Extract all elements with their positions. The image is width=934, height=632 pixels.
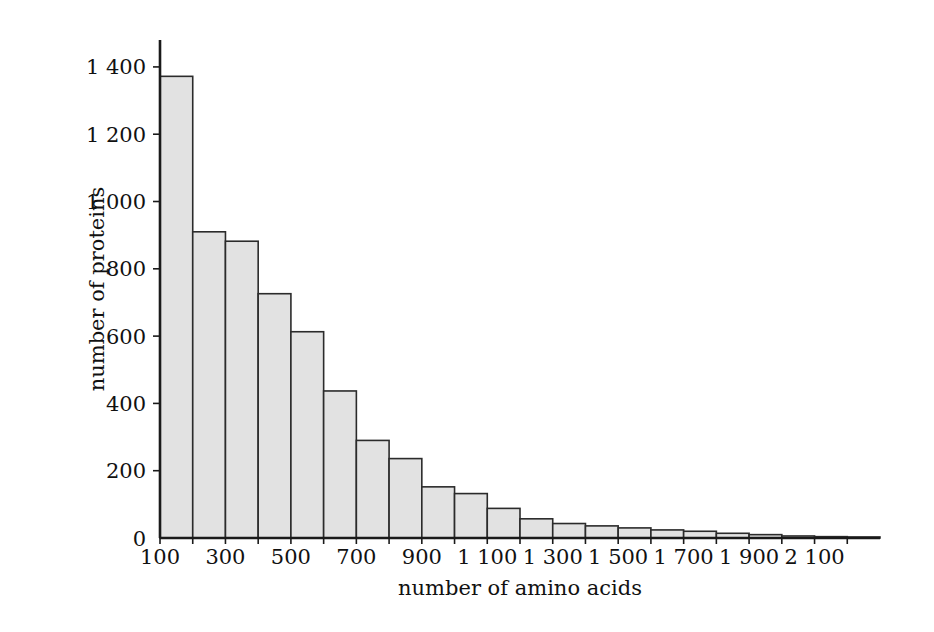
histogram-bar: [160, 76, 193, 538]
x-tick-label: 2 100: [784, 545, 844, 569]
x-tick-label: 1 100: [457, 545, 517, 569]
x-tick-label: 100: [140, 545, 180, 569]
x-tick-label: 900: [402, 545, 442, 569]
x-tick-label: 500: [271, 545, 311, 569]
histogram-bar: [520, 519, 553, 538]
histogram-bar: [258, 294, 291, 538]
x-axis-title: number of amino acids: [398, 576, 642, 600]
y-tick-label: 1 400: [86, 55, 146, 79]
y-tick-label: 600: [106, 325, 146, 349]
histogram-bar: [356, 440, 389, 538]
x-tick-label: 1 300: [523, 545, 583, 569]
histogram-bar: [389, 459, 422, 538]
x-tick-label: 1 900: [719, 545, 779, 569]
y-tick-label: 800: [106, 257, 146, 281]
chart-canvas: 02004006008001 0001 2001 400 10030050070…: [0, 0, 934, 632]
y-tick-label: 200: [106, 459, 146, 483]
histogram-bar: [553, 524, 586, 538]
histogram-bar: [487, 508, 520, 538]
histogram-bar: [422, 487, 455, 538]
histogram-bar: [225, 241, 258, 538]
histogram-bar: [455, 494, 488, 538]
x-tick-label: 1 700: [654, 545, 714, 569]
y-tick-label: 400: [106, 392, 146, 416]
y-axis-title: number of proteins: [85, 187, 109, 392]
x-tick-label: 1 500: [588, 545, 648, 569]
histogram-bar: [324, 391, 357, 538]
histogram-bar: [618, 528, 651, 538]
histogram-bar: [291, 332, 324, 538]
histogram-figure: 02004006008001 0001 2001 400 10030050070…: [0, 0, 934, 632]
x-tick-label: 300: [205, 545, 245, 569]
histogram-bar: [585, 526, 618, 538]
histogram-bar: [193, 232, 226, 538]
y-tick-label: 1 200: [86, 123, 146, 147]
x-tick-label: 700: [336, 545, 376, 569]
